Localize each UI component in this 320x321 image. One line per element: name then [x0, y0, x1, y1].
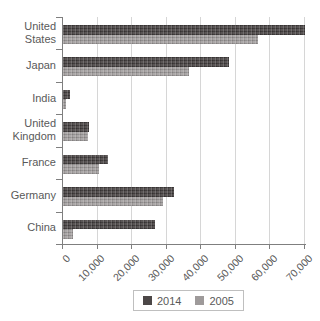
- x-axis-tick: [166, 244, 167, 249]
- bar-2014-united-kingdom: [63, 122, 89, 132]
- category-label-germany: Germany: [0, 179, 56, 211]
- x-tick-label-0: 0: [60, 252, 73, 265]
- x-axis-tick: [131, 244, 132, 249]
- legend-label-2014: 2014: [157, 295, 181, 307]
- x-axis-tick: [62, 244, 63, 249]
- bar-2014-japan: [63, 57, 229, 67]
- bar-2014-united-states: [63, 25, 305, 35]
- y-axis: [62, 17, 63, 245]
- bar-2005-japan: [63, 67, 189, 77]
- x-axis-tick: [269, 244, 270, 249]
- category-label-japan: Japan: [0, 49, 56, 81]
- bar-2005-germany: [63, 197, 163, 207]
- x-tick-label-60000: 60,000: [249, 252, 280, 283]
- x-tick-label-50000: 50,000: [214, 252, 245, 283]
- bar-chart: United StatesJapanIndiaUnited KingdomFra…: [0, 0, 320, 321]
- gridline: [97, 17, 98, 244]
- x-tick-label-30000: 30,000: [145, 252, 176, 283]
- x-tick-label-20000: 20,000: [110, 252, 141, 283]
- bar-2014-france: [63, 155, 108, 165]
- bar-2014-india: [63, 90, 70, 100]
- legend-item-2014: 2014: [143, 295, 181, 307]
- gridline: [269, 17, 270, 244]
- category-label-india: India: [0, 82, 56, 114]
- bar-2005-china: [63, 229, 73, 239]
- legend: 2014 2005: [133, 290, 244, 311]
- x-tick-label-40000: 40,000: [180, 252, 211, 283]
- bar-2005-united-kingdom: [63, 132, 88, 142]
- gridline: [131, 17, 132, 244]
- gridline: [166, 17, 167, 244]
- y-axis-tick: [56, 114, 62, 115]
- category-label-china: China: [0, 212, 56, 244]
- x-axis-tick: [97, 244, 98, 249]
- legend-swatch-2005: [195, 296, 204, 305]
- bar-2014-germany: [63, 187, 174, 197]
- bar-2014-china: [63, 220, 155, 230]
- gridline: [304, 17, 305, 244]
- y-axis-tick: [56, 82, 62, 83]
- legend-label-2005: 2005: [209, 295, 233, 307]
- gridline: [235, 17, 236, 244]
- x-tick-label-10000: 10,000: [76, 252, 107, 283]
- x-axis-tick: [200, 244, 201, 249]
- category-label-france: France: [0, 147, 56, 179]
- gridline: [200, 17, 201, 244]
- bar-2005-india: [63, 99, 66, 109]
- legend-item-2005: 2005: [195, 295, 233, 307]
- y-axis-tick: [56, 179, 62, 180]
- x-axis-tick: [304, 244, 305, 249]
- legend-swatch-2014: [143, 296, 152, 305]
- category-label-united-states: United States: [0, 17, 56, 49]
- x-axis-tick: [235, 244, 236, 249]
- category-label-united-kingdom: United Kingdom: [0, 114, 56, 146]
- x-tick-label-70000: 70,000: [283, 252, 314, 283]
- bar-2005-france: [63, 164, 99, 174]
- y-axis-tick: [56, 49, 62, 50]
- y-axis-tick: [56, 147, 62, 148]
- y-axis-tick: [56, 17, 62, 18]
- y-axis-tick: [56, 212, 62, 213]
- bar-2005-united-states: [63, 35, 258, 45]
